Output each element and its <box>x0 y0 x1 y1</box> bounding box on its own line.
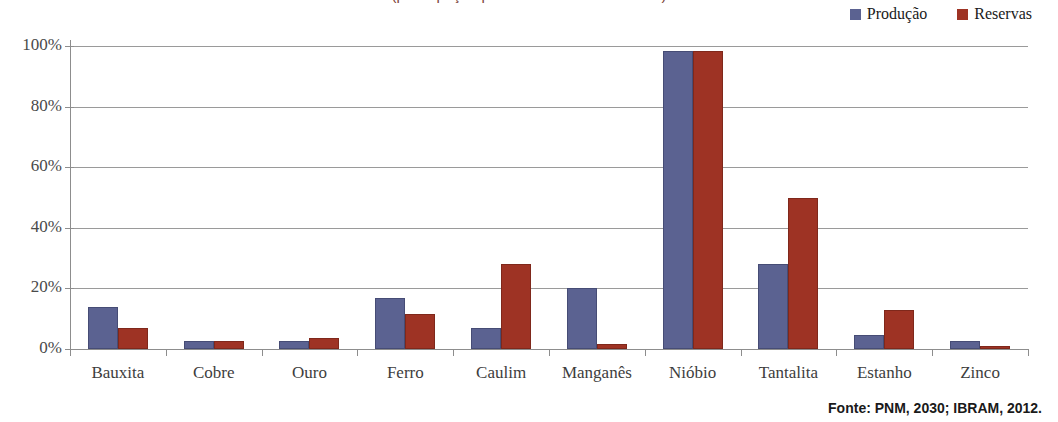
bar-producao <box>471 328 501 349</box>
bar-chart: (participação percentual no total mundia… <box>0 0 1058 422</box>
bar-producao <box>663 51 693 349</box>
x-axis-category-label: Ouro <box>262 360 358 386</box>
bar-producao <box>375 298 405 350</box>
x-axis-category-label: Tantalita <box>741 360 837 386</box>
legend-item-producao: Produção <box>850 6 927 22</box>
x-axis-tick-mark <box>1028 349 1029 356</box>
bar-reservas <box>118 328 148 349</box>
bar-reservas <box>693 51 723 349</box>
x-axis-category-label: Cobre <box>166 360 262 386</box>
x-axis-category-label: Caulim <box>453 360 549 386</box>
bar-reservas <box>788 198 818 350</box>
x-axis-tick-mark <box>262 349 263 356</box>
x-axis-tick-mark <box>836 349 837 356</box>
bar-group <box>836 46 932 349</box>
legend-label-producao: Produção <box>867 6 927 22</box>
legend-item-reservas: Reservas <box>957 6 1032 22</box>
x-axis-tick-mark <box>166 349 167 356</box>
bar-group <box>70 46 166 349</box>
bar-producao <box>854 335 884 349</box>
bar-reservas <box>405 314 435 349</box>
x-axis-category-label: Nióbio <box>645 360 741 386</box>
bar-group <box>932 46 1028 349</box>
bar-reservas <box>214 341 244 349</box>
x-axis-tick-mark <box>741 349 742 356</box>
bar-group <box>262 46 358 349</box>
y-axis-tick-label: 100% <box>0 35 62 55</box>
x-axis-tick-mark <box>453 349 454 356</box>
bar-groups <box>70 46 1028 349</box>
x-axis-category-label: Zinco <box>932 360 1028 386</box>
source-note: Fonte: PNM, 2030; IBRAM, 2012. <box>828 400 1042 416</box>
x-axis-category-label: Bauxita <box>70 360 166 386</box>
bar-group <box>357 46 453 349</box>
x-axis-tick-mark <box>645 349 646 356</box>
bar-producao <box>950 341 980 349</box>
bar-group <box>549 46 645 349</box>
chart-title-text: (participação percentual no total mundia… <box>391 0 666 3</box>
x-axis-tick-mark <box>357 349 358 356</box>
y-axis-tick-label: 0% <box>0 338 62 358</box>
bar-reservas <box>309 338 339 349</box>
bar-reservas <box>884 310 914 349</box>
bar-producao <box>279 341 309 349</box>
chart-title-clipped: (participação percentual no total mundia… <box>0 0 1058 4</box>
bar-group <box>166 46 262 349</box>
chart-legend: Produção Reservas <box>850 6 1032 22</box>
bar-producao <box>567 288 597 349</box>
x-axis-labels: BauxitaCobreOuroFerroCaulimManganêsNióbi… <box>70 360 1028 386</box>
bar-producao <box>184 341 214 349</box>
x-axis-tick-mark <box>549 349 550 356</box>
x-axis-ticks <box>70 349 1028 356</box>
bar-group <box>645 46 741 349</box>
x-axis-tick-mark <box>932 349 933 356</box>
y-axis-tick-label: 80% <box>0 96 62 116</box>
y-axis-tick-label: 40% <box>0 217 62 237</box>
y-axis-tick-label: 60% <box>0 156 62 176</box>
bar-group <box>741 46 837 349</box>
x-axis-category-label: Ferro <box>357 360 453 386</box>
y-axis-tick-label: 20% <box>0 277 62 297</box>
legend-swatch-producao <box>850 9 861 20</box>
bar-reservas <box>501 264 531 349</box>
x-axis-tick-mark <box>70 349 71 356</box>
x-axis-category-label: Manganês <box>549 360 645 386</box>
legend-label-reservas: Reservas <box>974 6 1032 22</box>
bar-group <box>453 46 549 349</box>
x-axis-category-label: Estanho <box>836 360 932 386</box>
legend-swatch-reservas <box>957 9 968 20</box>
bar-producao <box>88 307 118 349</box>
bar-producao <box>758 264 788 349</box>
